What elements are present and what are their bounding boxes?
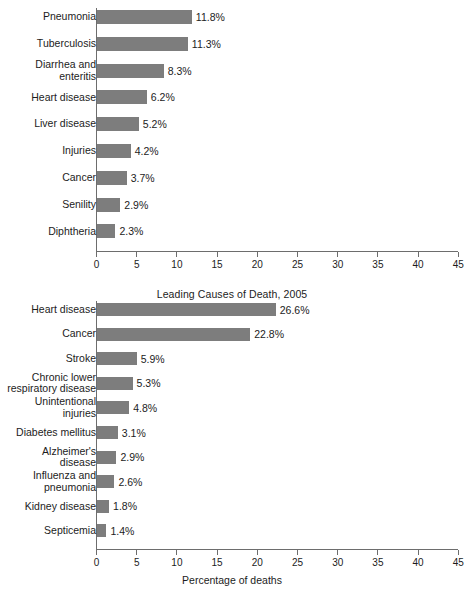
category-label: Heart disease bbox=[31, 304, 96, 316]
category-label: Injuries bbox=[62, 145, 96, 157]
bar-value-label: 8.3% bbox=[168, 65, 192, 77]
bar-value-label: 2.6% bbox=[118, 476, 142, 488]
x-axis-tick bbox=[96, 550, 97, 555]
x-axis-tick bbox=[337, 550, 338, 555]
bar-row: Stroke5.9% bbox=[0, 352, 464, 365]
category-label: Alzheimer's disease bbox=[42, 446, 96, 469]
bar-row: Influenza and pneumonia2.6% bbox=[0, 475, 464, 488]
x-axis-tick-label: 45 bbox=[453, 259, 464, 270]
bar bbox=[97, 426, 118, 439]
bar-row: Heart disease26.6% bbox=[0, 303, 464, 316]
x-axis-tick-label: 40 bbox=[413, 557, 424, 568]
category-label: Cancer bbox=[62, 328, 96, 340]
chart-1900-causes-of-death: 051015202530354045 Pneumonia11.8%Tubercu… bbox=[0, 0, 464, 288]
x-axis-tick-label: 30 bbox=[332, 259, 343, 270]
x-axis-tick bbox=[176, 550, 177, 555]
x-axis-tick bbox=[458, 550, 459, 555]
bar-row: Pneumonia11.8% bbox=[0, 10, 464, 24]
x-axis-tick bbox=[176, 252, 177, 257]
x-axis-tick bbox=[217, 252, 218, 257]
bar bbox=[97, 171, 127, 185]
bar-value-label: 5.3% bbox=[137, 377, 161, 389]
bar bbox=[97, 198, 120, 212]
category-label: Diabetes mellitus bbox=[16, 427, 96, 439]
category-label: Tuberculosis bbox=[37, 38, 96, 50]
bar-value-label: 4.2% bbox=[135, 145, 159, 157]
bar-row: Alzheimer's disease2.9% bbox=[0, 451, 464, 464]
bar-value-label: 1.4% bbox=[110, 525, 134, 537]
x-axis-tick-label: 15 bbox=[212, 259, 223, 270]
category-label: Heart disease bbox=[31, 92, 96, 104]
x-axis-tick bbox=[458, 252, 459, 257]
category-label: Senility bbox=[62, 199, 96, 211]
x-axis-line-top bbox=[96, 251, 458, 252]
bar bbox=[97, 303, 276, 316]
category-label: Diarrhea and enteritis bbox=[35, 59, 96, 82]
x-axis-tick-label: 5 bbox=[134, 557, 140, 568]
x-axis-tick-label: 30 bbox=[332, 557, 343, 568]
category-label: Kidney disease bbox=[25, 501, 96, 513]
bar-value-label: 1.8% bbox=[113, 500, 137, 512]
bar bbox=[97, 117, 139, 131]
bar-value-label: 11.3% bbox=[192, 38, 221, 50]
bar-row: Unintentional injuries4.8% bbox=[0, 401, 464, 414]
bar bbox=[97, 401, 129, 414]
bar bbox=[97, 37, 188, 51]
bar-row: Cancer3.7% bbox=[0, 171, 464, 185]
x-axis-tick-label: 10 bbox=[171, 259, 182, 270]
x-axis-tick bbox=[96, 252, 97, 257]
bar-value-label: 2.9% bbox=[120, 451, 144, 463]
x-axis-tick bbox=[418, 550, 419, 555]
x-axis-tick-label: 0 bbox=[94, 259, 100, 270]
bar-row: Septicemia1.4% bbox=[0, 524, 464, 537]
bar-value-label: 4.8% bbox=[133, 402, 157, 414]
bar-value-label: 26.6% bbox=[280, 304, 310, 316]
x-axis-tick-label: 5 bbox=[134, 259, 140, 270]
bar bbox=[97, 10, 192, 24]
chart-title-bottom: Leading Causes of Death, 2005 bbox=[0, 288, 464, 300]
bar bbox=[97, 352, 137, 365]
category-label: Stroke bbox=[66, 353, 96, 365]
x-axis-tick bbox=[377, 550, 378, 555]
bar-row: Injuries4.2% bbox=[0, 144, 464, 158]
x-axis-tick-label: 20 bbox=[252, 557, 263, 568]
x-axis-tick-label: 10 bbox=[171, 557, 182, 568]
bar-row: Liver disease5.2% bbox=[0, 117, 464, 131]
x-axis-tick-label: 25 bbox=[292, 557, 303, 568]
x-axis-tick bbox=[377, 252, 378, 257]
bar-row: Senility2.9% bbox=[0, 198, 464, 212]
bar-row: Chronic lower respiratory disease5.3% bbox=[0, 377, 464, 390]
category-label: Chronic lower respiratory disease bbox=[7, 372, 96, 395]
bar bbox=[97, 475, 114, 488]
x-axis-tick-label: 15 bbox=[212, 557, 223, 568]
x-axis-tick-label: 40 bbox=[413, 259, 424, 270]
x-axis-tick-label: 25 bbox=[292, 259, 303, 270]
bar-row: Diphtheria2.3% bbox=[0, 224, 464, 238]
x-axis-tick bbox=[418, 252, 419, 257]
bar-value-label: 6.2% bbox=[151, 91, 175, 103]
x-axis-tick bbox=[136, 252, 137, 257]
x-axis-tick-label: 0 bbox=[94, 557, 100, 568]
x-axis-tick-label: 35 bbox=[372, 557, 383, 568]
bar-row: Cancer22.8% bbox=[0, 328, 464, 341]
bar bbox=[97, 90, 147, 104]
bar bbox=[97, 64, 164, 78]
x-axis-line-bottom bbox=[96, 549, 458, 550]
x-axis-tick bbox=[297, 550, 298, 555]
bar-value-label: 5.9% bbox=[141, 353, 165, 365]
bar-row: Diabetes mellitus3.1% bbox=[0, 426, 464, 439]
bar-row: Diarrhea and enteritis8.3% bbox=[0, 64, 464, 78]
bar-value-label: 22.8% bbox=[254, 328, 284, 340]
chart-2005-causes-of-death: Leading Causes of Death, 2005 0510152025… bbox=[0, 288, 464, 599]
category-label: Septicemia bbox=[44, 525, 96, 537]
category-label: Pneumonia bbox=[43, 11, 96, 23]
x-axis-tick-label: 45 bbox=[453, 557, 464, 568]
x-axis-tick bbox=[337, 252, 338, 257]
category-label: Diphtheria bbox=[48, 226, 96, 238]
bar-value-label: 3.7% bbox=[131, 172, 155, 184]
bar bbox=[97, 377, 133, 390]
bar bbox=[97, 500, 109, 513]
bar-value-label: 5.2% bbox=[143, 118, 167, 130]
x-axis-tick-label: 35 bbox=[372, 259, 383, 270]
bar bbox=[97, 328, 250, 341]
